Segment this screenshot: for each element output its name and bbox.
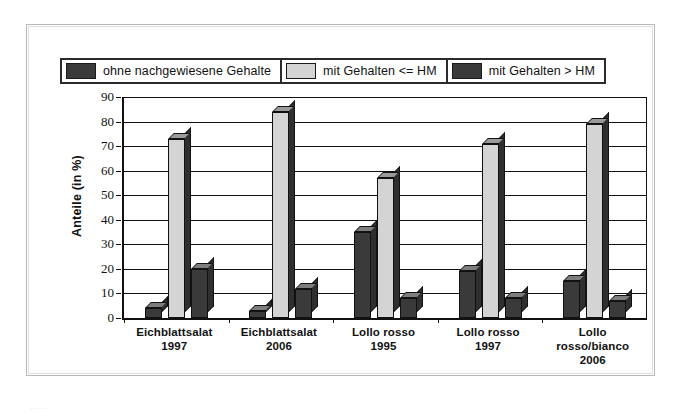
x-axis-tick-mark xyxy=(333,318,334,323)
bar-side-face xyxy=(499,132,505,312)
bar-group xyxy=(438,97,543,318)
bar-front-face xyxy=(354,232,371,318)
legend-label-0: ohne nachgewiesene Gehalte xyxy=(96,64,280,78)
x-axis-category-labels: Eichblattsalat1997Eichblattsalat2006Loll… xyxy=(122,325,645,387)
x-axis-tick-mark xyxy=(124,318,125,323)
y-axis-tick-mark xyxy=(116,122,121,123)
bar-group xyxy=(333,97,438,318)
bar xyxy=(609,301,626,318)
y-axis-tick-label: 10 xyxy=(101,285,114,301)
legend-item-0: ohne nachgewiesene Gehalte xyxy=(62,60,280,82)
x-axis-category-label-line: rosso/bianco xyxy=(540,339,645,353)
y-axis-tick-mark xyxy=(116,318,121,319)
y-axis-tick-label: 70 xyxy=(101,138,114,154)
bar xyxy=(505,298,522,318)
x-axis-category-label-line: 2006 xyxy=(227,339,332,353)
bar xyxy=(295,289,312,318)
y-axis-tick-label: 50 xyxy=(101,187,114,203)
x-axis-category-label-line: 1997 xyxy=(122,339,227,353)
bar-front-face xyxy=(400,298,417,318)
bar-side-face xyxy=(289,100,295,312)
bar xyxy=(249,311,266,318)
bar-side-face xyxy=(603,112,609,312)
legend-item-1: mit Gehalten <= HM xyxy=(282,60,446,82)
bar-front-face xyxy=(563,281,580,318)
x-axis-category-label: Lollo rosso1997 xyxy=(436,325,541,353)
legend-swatch-icon-1 xyxy=(286,63,316,79)
bar xyxy=(168,139,185,318)
x-axis-category-label-line: 2006 xyxy=(540,353,645,367)
x-axis-category-label-line: 1995 xyxy=(331,339,436,353)
bar-front-face xyxy=(377,178,394,318)
bar xyxy=(563,281,580,318)
bar-side-face xyxy=(522,286,528,312)
x-axis-category-label-line: Lollo rosso xyxy=(436,325,541,339)
caption-text: ..... xyxy=(30,399,630,411)
bar xyxy=(191,269,208,318)
legend-swatch-icon-0 xyxy=(66,63,96,79)
bar xyxy=(586,124,603,318)
bar xyxy=(272,112,289,318)
x-axis-category-label-line: Lollo xyxy=(540,325,645,339)
y-axis-tick-mark xyxy=(116,146,121,147)
bar-group xyxy=(542,97,647,318)
y-axis-tick-label: 90 xyxy=(101,89,114,105)
chart-legend: ohne nachgewiesene Gehalte mit Gehalten … xyxy=(60,58,606,84)
bar xyxy=(400,298,417,318)
x-axis-category-label: Lollorosso/bianco2006 xyxy=(540,325,645,367)
bar xyxy=(354,232,371,318)
x-axis-category-label: Eichblattsalat1997 xyxy=(122,325,227,353)
y-axis-tick-mark xyxy=(116,293,121,294)
figure-frame: ohne nachgewiesene Gehalte mit Gehalten … xyxy=(26,24,655,376)
legend-item-2: mit Gehalten > HM xyxy=(448,60,604,82)
legend-swatch-icon-2 xyxy=(452,63,482,79)
bar-group xyxy=(124,97,229,318)
bar-groups xyxy=(124,97,647,318)
bar-front-face xyxy=(295,289,312,318)
y-axis-title: Anteile (in %) xyxy=(70,155,84,237)
x-axis-category-label-line: Lollo rosso xyxy=(331,325,436,339)
y-axis-tick-label: 0 xyxy=(108,310,115,326)
y-axis-tick-mark xyxy=(116,97,121,98)
x-axis-tick-mark xyxy=(542,318,543,323)
x-axis-tick-mark xyxy=(438,318,439,323)
bar-front-face xyxy=(505,298,522,318)
bar-front-face xyxy=(272,112,289,318)
bar-front-face xyxy=(459,271,476,318)
figure-page: ohne nachgewiesene Gehalte mit Gehalten … xyxy=(0,0,678,416)
legend-label-2: mit Gehalten > HM xyxy=(482,64,604,78)
bar-side-face xyxy=(394,166,400,312)
x-axis-category-label: Eichblattsalat2006 xyxy=(227,325,332,353)
bar-front-face xyxy=(168,139,185,318)
y-axis-tick-mark xyxy=(116,269,121,270)
y-axis-tick-mark xyxy=(116,171,121,172)
bar-front-face xyxy=(191,269,208,318)
legend-label-1: mit Gehalten <= HM xyxy=(316,64,446,78)
bar-group xyxy=(229,97,334,318)
bar xyxy=(459,271,476,318)
y-axis-tick-label: 30 xyxy=(101,236,114,252)
x-axis-category-label-line: 1997 xyxy=(436,339,541,353)
x-axis-category-label: Lollo rosso1995 xyxy=(331,325,436,353)
bar xyxy=(145,308,162,318)
bar-front-face xyxy=(249,311,266,318)
y-axis-tick-mark xyxy=(116,244,121,245)
y-axis-tick-label: 20 xyxy=(101,261,114,277)
bar-front-face xyxy=(145,308,162,318)
plot-frame xyxy=(122,97,647,320)
y-axis-tick-mark xyxy=(116,195,121,196)
chart-plot-area: Anteile (in %) 9080706050403020100 Eichb… xyxy=(60,97,675,393)
x-axis-tick-mark xyxy=(229,318,230,323)
y-axis-tick-label: 80 xyxy=(101,114,114,130)
y-axis-tick-label: 60 xyxy=(101,163,114,179)
y-axis-tick-label: 40 xyxy=(101,212,114,228)
bar-front-face xyxy=(586,124,603,318)
bar xyxy=(377,178,394,318)
bar xyxy=(482,144,499,318)
bar-front-face xyxy=(609,301,626,318)
bar-side-face xyxy=(626,289,632,312)
x-axis-category-label-line: Eichblattsalat xyxy=(227,325,332,339)
bar-side-face xyxy=(417,286,423,312)
bar-front-face xyxy=(482,144,499,318)
y-axis-tick-labels: 9080706050403020100 xyxy=(88,97,114,393)
